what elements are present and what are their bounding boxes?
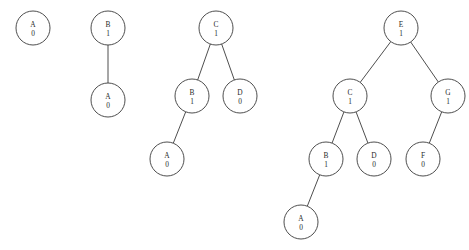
tree-node: C1 (199, 11, 233, 45)
tree-node: D0 (223, 79, 257, 113)
tree-edge (356, 112, 368, 143)
node-value-label: 1 (446, 97, 450, 106)
tree-edge (307, 175, 319, 206)
node-key-label: B (324, 151, 329, 160)
tree-node: B1 (175, 79, 209, 113)
node-value-label: 0 (238, 97, 242, 106)
node-value-label: 0 (31, 29, 35, 38)
edges-layer (108, 42, 442, 207)
node-key-label: C (214, 20, 219, 29)
node-value-label: 0 (106, 101, 110, 110)
nodes-layer: A0B1A0C1B1D0A0E1C1G1B1D0F0A0 (16, 11, 465, 239)
node-key-label: C (348, 88, 353, 97)
tree-edge (173, 112, 185, 143)
tree-node: B1 (309, 142, 343, 176)
node-key-label: D (237, 88, 243, 97)
node-key-label: D (371, 151, 377, 160)
node-key-label: A (105, 92, 111, 101)
tree-node: F0 (406, 142, 440, 176)
tree-node-group: C1B1D0A0 (150, 11, 257, 176)
node-key-label: G (445, 88, 451, 97)
node-value-label: 0 (165, 160, 169, 169)
node-key-label: B (106, 20, 111, 29)
tree-node: A0 (16, 11, 50, 45)
tree-edge-group (307, 42, 441, 207)
tree-edge (332, 112, 344, 143)
node-value-label: 1 (324, 160, 328, 169)
tree-node: E1 (384, 11, 418, 45)
node-value-label: 1 (348, 97, 352, 106)
node-key-label: E (399, 20, 404, 29)
tree-node: B1 (91, 11, 125, 45)
tree-node-group: A0 (16, 11, 50, 45)
tree-diagram-canvas: A0B1A0C1B1D0A0E1C1G1B1D0F0A0 (0, 0, 469, 250)
tree-node: G1 (431, 79, 465, 113)
node-value-label: 1 (214, 29, 218, 38)
tree-diagram-figure: A0B1A0C1B1D0A0E1C1G1B1D0F0A0 (0, 0, 469, 250)
tree-node: A0 (91, 83, 125, 117)
tree-edge (411, 42, 439, 82)
tree-node-group: E1C1G1B1D0F0A0 (284, 11, 465, 239)
node-key-label: B (190, 88, 195, 97)
tree-edge (198, 44, 211, 80)
node-value-label: 0 (299, 223, 303, 232)
node-value-label: 1 (106, 29, 110, 38)
tree-node: C1 (333, 79, 367, 113)
tree-edge (429, 112, 441, 143)
node-value-label: 0 (421, 160, 425, 169)
node-key-label: A (30, 20, 36, 29)
node-key-label: A (164, 151, 170, 160)
node-value-label: 1 (190, 97, 194, 106)
tree-node: A0 (284, 205, 318, 239)
tree-edge (222, 44, 235, 80)
tree-edge (360, 42, 391, 83)
node-key-label: A (298, 214, 304, 223)
node-key-label: F (421, 151, 425, 160)
node-value-label: 1 (399, 29, 403, 38)
tree-node: A0 (150, 142, 184, 176)
tree-node: D0 (357, 142, 391, 176)
node-value-label: 0 (372, 160, 376, 169)
